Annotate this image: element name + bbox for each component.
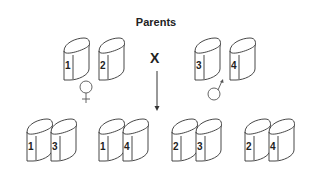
chromosome-label: 2 (173, 141, 179, 152)
chromosome-icon (193, 37, 223, 81)
female-chromosome-2: 2 (97, 37, 127, 85)
chromosome-label: 3 (197, 141, 203, 152)
female-chromosome-1: 1 (62, 37, 92, 85)
offspring-3-chromosome-b: 3 (194, 118, 224, 166)
offspring-1-chromosome-b: 3 (49, 118, 79, 166)
chromosome-icon (62, 37, 92, 81)
male-chromosome-4: 4 (228, 37, 258, 85)
chromosome-label: 1 (100, 141, 106, 152)
chromosome-icon (49, 118, 79, 162)
offspring-4-chromosome-b: 4 (267, 118, 297, 166)
chromosome-icon (194, 118, 224, 162)
chromosome-label: 2 (246, 141, 252, 152)
chromosome-icon (121, 118, 151, 162)
arrow-head-icon (155, 106, 160, 111)
chromosome-label: 3 (196, 60, 202, 71)
genetics-cross-diagram: Parents X 123413142324 (0, 0, 312, 175)
chromosome-icon (228, 37, 258, 81)
chromosome-icon (97, 37, 127, 81)
chromosome-label: 4 (270, 141, 276, 152)
male-chromosome-3: 3 (193, 37, 223, 85)
chromosome-label: 4 (124, 141, 130, 152)
offspring-2-chromosome-b: 4 (121, 118, 151, 166)
chromosome-label: 2 (100, 60, 106, 71)
chromosome-label: 4 (231, 60, 237, 71)
chromosome-icon (267, 118, 297, 162)
chromosome-label: 1 (28, 141, 34, 152)
chromosome-label: 3 (52, 141, 58, 152)
chromosome-label: 1 (65, 60, 71, 71)
